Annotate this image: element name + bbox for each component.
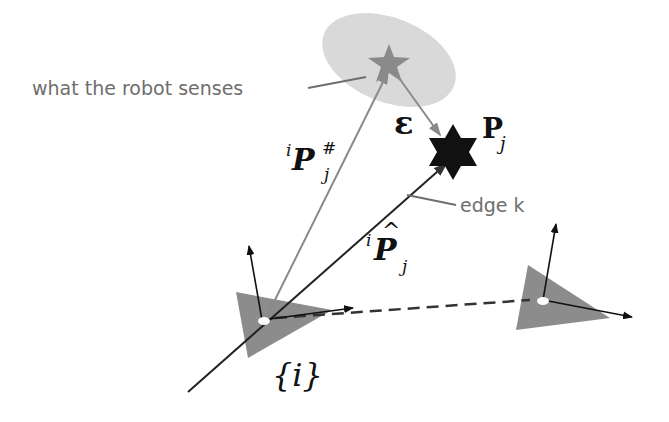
frame-label: {i}	[272, 356, 323, 394]
pose-other-origin	[537, 297, 549, 305]
robot-pose-j-frame	[516, 265, 610, 330]
sensed-annotation: what the robot senses	[32, 77, 243, 99]
estimated-vector-label: i ^ P j	[366, 218, 408, 276]
error-label: ε	[394, 104, 413, 142]
pose-i-origin	[258, 317, 270, 325]
robot-pose-i	[236, 292, 332, 358]
svg-text:j: j	[320, 164, 330, 184]
svg-text:#: #	[322, 138, 336, 158]
edge-annotation: edge k	[460, 194, 525, 216]
svg-text:P: P	[291, 142, 316, 177]
svg-text:P: P	[373, 232, 398, 267]
svg-text:i: i	[286, 140, 291, 160]
svg-text:j: j	[398, 256, 408, 276]
edge-k-leader-line	[407, 195, 456, 205]
landmark-label: P j	[482, 112, 506, 154]
measured-vector-line	[264, 72, 388, 322]
measured-vector-label: i P # j	[286, 138, 336, 184]
pose-graph-diagram: what the robot senses edge k i P # j i ^…	[0, 0, 669, 422]
svg-text:i: i	[366, 230, 371, 250]
